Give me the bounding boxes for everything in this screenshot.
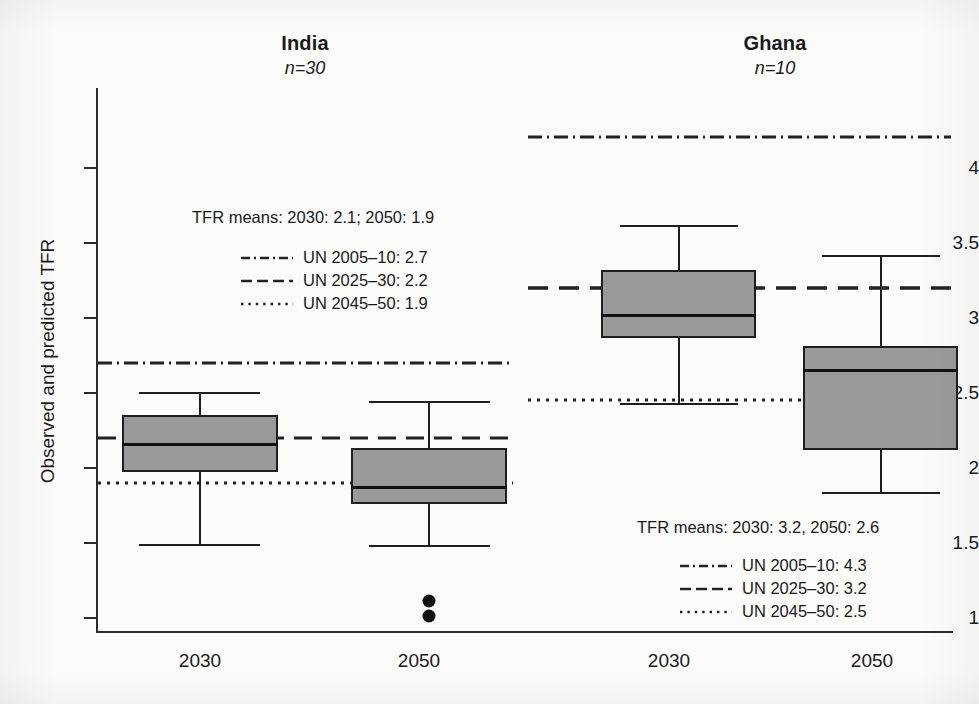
whisker-high (880, 255, 882, 346)
outlier-point (423, 595, 436, 608)
median-line (122, 443, 278, 446)
whisker-high (678, 225, 680, 270)
whisker-high (199, 392, 201, 415)
median-line (803, 369, 958, 372)
ghana-legend-label: UN 2025–30: 3.2 (742, 579, 867, 598)
dashdot-line-key (240, 251, 294, 265)
dashed-line-key (240, 274, 294, 288)
dotted-line-key (679, 605, 733, 619)
ghana-legend-row-un2005-10: UN 2005–10: 4.3 (679, 556, 867, 575)
whisker-high (428, 401, 430, 448)
whisker-cap-low (369, 545, 490, 547)
india-legend-row-un2045-50: UN 2045–50: 1.9 (240, 294, 428, 313)
india-legend-row-un2005-10: UN 2005–10: 2.7 (240, 248, 428, 267)
box-iqr (601, 270, 756, 338)
boxplot-figure: India n=30 Ghana n=10 Observed and predi… (0, 0, 979, 704)
india-legend-label: UN 2005–10: 2.7 (303, 248, 428, 267)
whisker-low (678, 338, 680, 404)
ghana-legend-label: UN 2045–50: 2.5 (742, 602, 867, 621)
whisker-cap-low (620, 403, 738, 405)
median-line (351, 486, 507, 489)
ghana-tfr-means-annotation: TFR means: 2030: 3.2, 2050: 2.6 (637, 518, 879, 537)
ghana-legend-row-un2045-50: UN 2045–50: 2.5 (679, 602, 867, 621)
box-iqr (803, 346, 958, 450)
india-legend-label: UN 2045–50: 1.9 (303, 294, 428, 313)
outlier-point (423, 610, 436, 623)
dashed-line-key (679, 582, 733, 596)
ghana-legend-label: UN 2005–10: 4.3 (742, 556, 867, 575)
whisker-cap-low (139, 544, 260, 546)
india-legend-row-un2025-30: UN 2025–30: 2.2 (240, 271, 428, 290)
median-line (601, 314, 756, 317)
box-iqr (351, 448, 507, 504)
whisker-low (880, 450, 882, 493)
dashdot-line-key (679, 559, 733, 573)
whisker-low (199, 472, 201, 545)
dotted-line-key (240, 297, 294, 311)
india-tfr-means-annotation: TFR means: 2030: 2.1; 2050: 1.9 (192, 208, 434, 227)
ghana-legend-row-un2025-30: UN 2025–30: 3.2 (679, 579, 867, 598)
india-legend-label: UN 2025–30: 2.2 (303, 271, 428, 290)
whisker-low (428, 504, 430, 546)
whisker-cap-low (822, 492, 940, 494)
